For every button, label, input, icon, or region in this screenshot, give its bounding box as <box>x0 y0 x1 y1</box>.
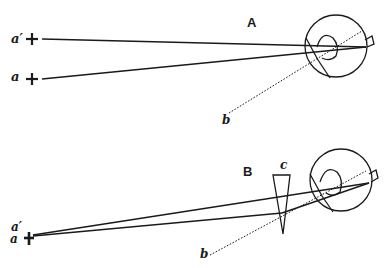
point-a-label-b: a <box>10 232 18 246</box>
plus-marker-a-prime <box>26 33 38 45</box>
point-a-prime-label: a′ <box>11 31 23 46</box>
panel-a: A a′ a b <box>11 15 374 127</box>
plus-marker-a <box>26 73 38 85</box>
ray-lower-b-refracted <box>282 183 369 213</box>
visual-axis-b-b <box>210 171 366 255</box>
ray-a <box>42 47 366 79</box>
prism-c <box>273 175 290 234</box>
prism-eye-diagram: A a′ a b B <box>0 0 385 268</box>
panel-b: B c a′ a b <box>10 149 378 261</box>
visual-axis-b-a <box>229 31 362 113</box>
panel-b-title: B <box>243 164 252 179</box>
panel-a-title: A <box>247 15 257 30</box>
axis-b-label-a: b <box>222 113 230 127</box>
axis-b-label-b: b <box>200 247 208 261</box>
point-a-label: a <box>11 69 19 84</box>
eye-b <box>310 149 378 212</box>
prism-c-label: c <box>280 158 288 172</box>
plus-marker-b <box>24 232 34 245</box>
